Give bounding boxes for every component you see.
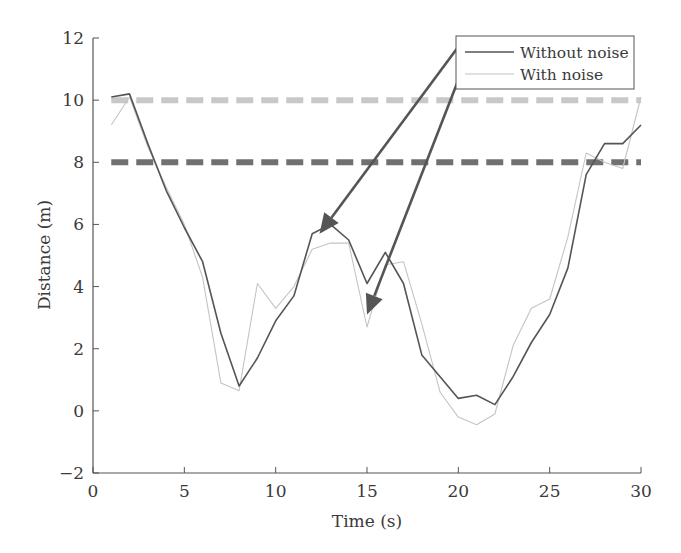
annotation-arrows	[320, 44, 461, 314]
x-axis-label: Time (s)	[332, 511, 402, 531]
y-tick-label: 0	[73, 401, 84, 421]
arrowhead-icon	[320, 212, 339, 233]
y-tick-label: −2	[59, 463, 84, 483]
x-tick-label: 0	[88, 481, 99, 501]
annotation-arrow-line	[374, 75, 460, 296]
line-chart: 051015202530 −2024681012 Time (s) Distan…	[0, 0, 681, 553]
x-tick-label: 5	[179, 481, 190, 501]
axes	[93, 38, 641, 473]
annotation-arrow-line	[331, 44, 460, 217]
y-axis-label: Distance (m)	[34, 200, 54, 310]
legend: Without noise With noise	[456, 36, 634, 89]
data-series	[111, 94, 641, 425]
series-line-without-noise	[111, 94, 641, 405]
x-tick-label: 10	[265, 481, 287, 501]
y-tick-label: 4	[73, 277, 84, 297]
y-tick-label: 10	[62, 90, 84, 110]
y-tick-label: 6	[73, 214, 84, 234]
legend-label-with-noise: With noise	[520, 66, 603, 84]
x-axis-ticks: 051015202530	[88, 467, 652, 501]
y-tick-label: 8	[73, 152, 84, 172]
x-tick-label: 15	[356, 481, 378, 501]
legend-label-without-noise: Without noise	[520, 44, 629, 62]
threshold-lines	[111, 100, 641, 162]
series-line-with-noise	[111, 97, 641, 425]
x-tick-label: 20	[448, 481, 470, 501]
y-tick-label: 12	[62, 28, 84, 48]
y-tick-label: 2	[73, 339, 84, 359]
x-tick-label: 30	[630, 481, 652, 501]
arrowhead-icon	[366, 293, 383, 315]
x-tick-label: 25	[539, 481, 561, 501]
